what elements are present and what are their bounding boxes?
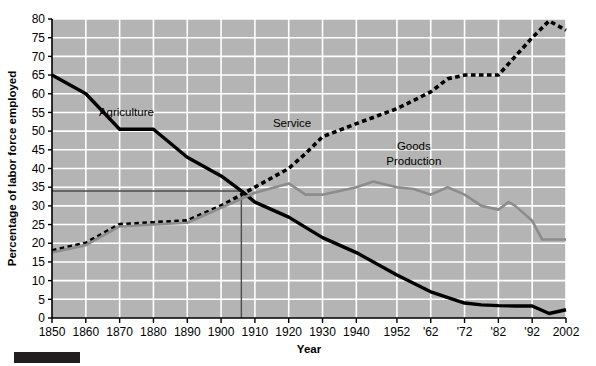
x-tick-label: 1920 — [275, 325, 302, 339]
y-tick-label: 55 — [32, 106, 46, 120]
x-tick-label: 1900 — [208, 325, 235, 339]
y-tick-label: 20 — [32, 236, 46, 250]
y-tick-label: 65 — [32, 68, 46, 82]
y-axis-title: Percentage of labor force employed — [6, 71, 18, 267]
y-tick-label: 45 — [32, 143, 46, 157]
y-tick-label: 75 — [32, 31, 46, 45]
x-tick-label: '82 — [491, 325, 507, 339]
y-tick-label: 25 — [32, 218, 46, 232]
series-annotation-goods: Goods — [397, 140, 431, 152]
y-tick-label: 10 — [32, 274, 46, 288]
x-tick-label: '72 — [457, 325, 473, 339]
footer-black-bar — [14, 352, 80, 363]
x-tick-label: 1850 — [39, 325, 66, 339]
x-tick-label: 1910 — [242, 325, 269, 339]
x-tick-label: 1870 — [106, 325, 133, 339]
series-annotation-service: Service — [273, 117, 311, 129]
x-tick-label: 1880 — [140, 325, 167, 339]
x-axis-title: Year — [297, 343, 322, 355]
y-tick-label: 0 — [38, 311, 45, 325]
chart-container: 0510152025303540455055606570758018501860… — [0, 0, 596, 366]
series-annotation-production: Production — [386, 155, 441, 167]
y-tick-label: 35 — [32, 180, 46, 194]
y-tick-label: 60 — [32, 87, 46, 101]
y-tick-label: 30 — [32, 199, 46, 213]
series-annotation-agriculture: Agriculture — [99, 106, 154, 118]
y-tick-label: 80 — [32, 12, 46, 26]
x-tick-label: 1940 — [343, 325, 370, 339]
x-tick-label: '92 — [524, 325, 540, 339]
x-tick-label: 2002 — [553, 325, 580, 339]
x-tick-label: '62 — [423, 325, 439, 339]
y-tick-label: 70 — [32, 50, 46, 64]
x-tick-label: 1930 — [309, 325, 336, 339]
y-tick-label: 15 — [32, 255, 46, 269]
y-tick-label: 5 — [38, 293, 45, 307]
labor-force-line-chart: 0510152025303540455055606570758018501860… — [0, 0, 596, 366]
y-tick-label: 40 — [32, 162, 46, 176]
y-tick-label: 50 — [32, 124, 46, 138]
x-tick-label: 1890 — [174, 325, 201, 339]
x-tick-label: 1952 — [384, 325, 411, 339]
x-tick-label: 1860 — [72, 325, 99, 339]
